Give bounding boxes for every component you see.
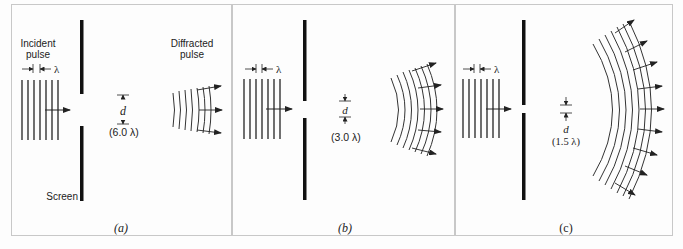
panel-caption: (c) [559, 221, 572, 235]
gap-symbol: d [120, 104, 127, 118]
wavelength-symbol: λ [54, 63, 60, 75]
panel-b-frame [233, 5, 455, 236]
diffracted-label-line2: pulse [180, 49, 204, 60]
diffracted-label-line1: Diffracted [171, 38, 214, 49]
panel-c-frame [456, 5, 673, 236]
gap-symbol: d [563, 123, 569, 135]
wavelength-symbol: λ [276, 63, 282, 75]
screen-label: Screen [46, 191, 78, 202]
incident-label-line2: pulse [26, 49, 50, 60]
gap-symbol: d [342, 104, 348, 116]
gap-value: (1.5 λ) [552, 136, 580, 148]
wavelength-symbol: λ [494, 63, 500, 75]
gap-value: (6.0 λ) [109, 126, 139, 138]
diffraction-figure: Incident pulse λ Screen [0, 0, 683, 249]
panel-caption: (b) [338, 221, 352, 235]
gap-value: (3.0 λ) [331, 131, 361, 143]
incident-label-line1: Incident [20, 38, 55, 49]
panel-caption: (a) [114, 221, 128, 235]
